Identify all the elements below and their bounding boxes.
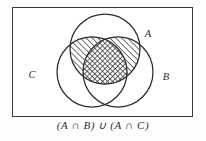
set-label-a: A: [144, 28, 152, 39]
set-label-b: B: [163, 71, 170, 82]
set-label-c: C: [28, 69, 36, 80]
venn-diagram-figure: A C B (A ∩ B) ∪ (A ∩ C): [0, 0, 206, 141]
figure-caption: (A ∩ B) ∪ (A ∩ C): [0, 119, 206, 132]
